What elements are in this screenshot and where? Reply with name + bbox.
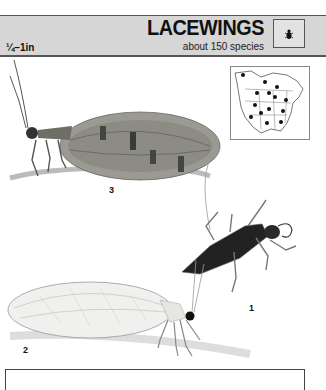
lacewing-3-illustration xyxy=(10,60,220,180)
page-header: ¼–1in LACEWINGS about 150 species xyxy=(0,15,326,57)
lacewing-2-illustration xyxy=(8,260,250,356)
lacewing-1-larva-illustration xyxy=(182,160,296,292)
insect-silhouette-icon xyxy=(284,28,294,40)
description-box xyxy=(5,369,305,390)
figure-label-1: 1 xyxy=(249,303,254,313)
illustration-canvas xyxy=(0,55,326,365)
page-title: LACEWINGS xyxy=(147,15,264,41)
size-range: ¼–1in xyxy=(6,42,34,53)
species-count: about 150 species xyxy=(183,41,264,52)
figure-label-3: 3 xyxy=(109,185,114,195)
category-icon-box xyxy=(273,19,305,48)
figure-label-2: 2 xyxy=(23,345,28,355)
